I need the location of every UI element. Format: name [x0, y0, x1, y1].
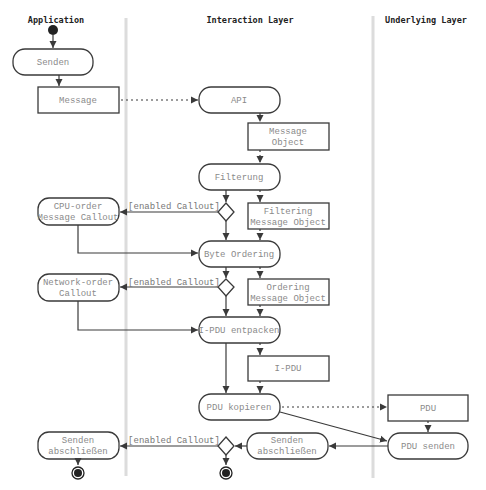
object-message-object-label-2: Object: [272, 138, 304, 148]
object-message-label: Message: [59, 96, 97, 106]
object-ordering-mo-label-2: Message Object: [250, 294, 326, 304]
guard-label-3: [enabled Callout]: [128, 436, 220, 446]
object-filtering-mo-label-2: Message Object: [250, 218, 326, 228]
action-pdu-senden-label: PDU senden: [401, 442, 455, 452]
action-cpu-order-callout-label-2: Message Callout: [37, 213, 118, 223]
action-senden-label: Senden: [37, 58, 69, 68]
guard-label-1: [enabled Callout]: [128, 202, 220, 212]
object-message-object-label-1: Message: [269, 127, 307, 137]
lane-title-application: Application: [28, 15, 84, 25]
guard-label-2: [enabled Callout]: [128, 278, 220, 288]
action-byte-ordering-label: Byte Ordering: [204, 250, 274, 260]
activity-diagram: Application Interaction Layer Underlying…: [0, 0, 486, 490]
decision-node-1: [218, 203, 234, 221]
action-senden-abschliessen-mid-label-1: Senden: [271, 436, 303, 446]
action-pdu-kopieren-label: PDU kopieren: [207, 403, 272, 413]
lane-title-underlying: Underlying Layer: [385, 15, 467, 25]
action-network-callout-label-2: Callout: [59, 289, 97, 299]
action-network-callout-label-1: Network-order: [43, 278, 113, 288]
object-pdu-label: PDU: [420, 404, 436, 414]
action-senden-abschliessen-left-label-2: abschließen: [48, 447, 107, 457]
start-node: [48, 25, 58, 35]
action-senden-abschliessen-left-label-1: Senden: [62, 436, 94, 446]
action-senden-abschliessen-mid-label-2: abschließen: [257, 447, 316, 457]
action-cpu-order-callout-label-1: CPU-order: [54, 202, 103, 212]
action-api-label: API: [231, 96, 247, 106]
object-filtering-mo-label-1: Filtering: [264, 207, 313, 217]
decision-node-3: [218, 437, 234, 455]
object-ipdu-label: I-PDU: [274, 364, 301, 374]
action-filterung-label: Filterung: [215, 173, 264, 183]
object-ordering-mo-label-1: Ordering: [266, 283, 309, 293]
decision-node-2: [218, 279, 234, 296]
action-ipdu-entpacken-label: I-PDU entpacken: [198, 326, 279, 336]
lane-title-interaction: Interaction Layer: [207, 15, 294, 25]
